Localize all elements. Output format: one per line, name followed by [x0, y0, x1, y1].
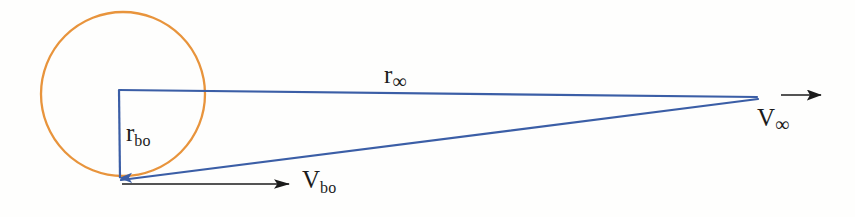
- label-v-infinity-subscript: ∞: [775, 113, 789, 135]
- label-v-infinity: V∞: [757, 105, 790, 134]
- label-r-infinity-subscript: ∞: [392, 70, 406, 92]
- diagram-canvas: rbo r∞ Vbo V∞: [0, 0, 855, 217]
- label-v-bo-subscript: bo: [320, 179, 336, 196]
- label-v-infinity-base: V: [757, 104, 775, 131]
- r-infinity-line: [119, 90, 757, 97]
- hypotenuse-line: [121, 99, 758, 180]
- label-r-bo-subscript: bo: [134, 132, 150, 149]
- r-bo-arrow: [119, 90, 120, 178]
- diagram-vector-layer: [0, 0, 855, 217]
- label-r-bo: rbo: [126, 120, 151, 149]
- label-v-bo-base: V: [302, 166, 320, 193]
- label-r-infinity: r∞: [384, 62, 407, 91]
- central-body-circle: [41, 12, 205, 176]
- label-v-bo: Vbo: [302, 167, 336, 196]
